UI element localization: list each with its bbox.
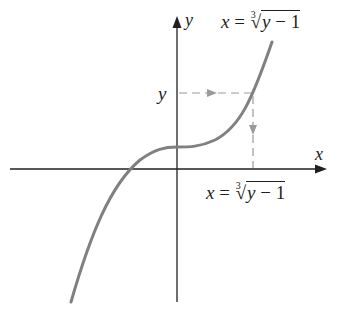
top-eq-var: x: [221, 11, 229, 32]
y-axis: [173, 16, 182, 302]
bottom-eq-index: 3: [236, 180, 241, 191]
bottom-eq-radicand: y − 1: [246, 181, 285, 202]
x-axis-label: x: [315, 145, 323, 163]
bottom-eq-var: x: [206, 182, 214, 203]
bottom-equation: x = 3√y − 1: [206, 181, 285, 202]
x-axis-arrow-icon: [315, 165, 327, 174]
top-eq-index: 3: [251, 9, 256, 20]
top-eq-radicand: y − 1: [261, 10, 300, 31]
cubic-curve: [71, 42, 272, 302]
x-axis: [10, 165, 327, 174]
y-axis-arrow-icon: [173, 16, 182, 28]
down-arrow-icon: [249, 125, 257, 135]
horizontal-dashed-guide: [179, 89, 251, 97]
top-eq-equals: =: [234, 11, 245, 32]
vertical-dashed-guide: [249, 96, 257, 168]
right-arrow-icon: [207, 89, 217, 97]
top-equation: x = 3√y − 1: [221, 10, 300, 31]
bottom-eq-equals: =: [219, 182, 230, 203]
cubic-inverse-diagram: [0, 0, 337, 311]
y-axis-label: y: [185, 11, 193, 29]
y-value-label: y: [158, 84, 166, 103]
